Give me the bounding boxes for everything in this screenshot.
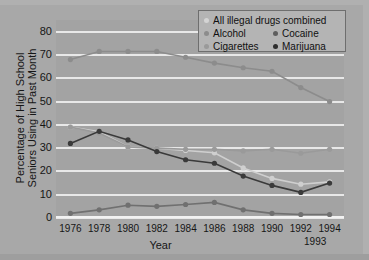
x-tick-label: 1988: [227, 223, 259, 234]
x-tick-label: 1990: [256, 223, 288, 234]
legend-item: Cigarettes: [203, 41, 272, 52]
data-point-marker: [298, 182, 303, 187]
x-tick-label: 1984: [170, 223, 202, 234]
y-tick-label: 40: [18, 119, 52, 130]
data-point-marker: [183, 157, 188, 162]
series-line: [70, 51, 329, 101]
legend-item: Marijuana: [272, 41, 341, 52]
data-point-marker: [269, 69, 274, 74]
y-tick-label: 20: [18, 165, 52, 176]
data-point-marker: [269, 211, 274, 216]
legend-label: Marijuana: [282, 41, 326, 52]
data-point-marker: [212, 200, 217, 205]
data-point-marker: [269, 147, 274, 152]
legend-row: AlcoholCocaine: [203, 27, 341, 39]
legend-label: Cocaine: [282, 28, 319, 39]
data-point-marker: [125, 137, 130, 142]
data-point-marker: [68, 57, 73, 62]
x-tick-label: 1992: [285, 223, 317, 234]
x-tick-label: 1980: [112, 223, 144, 234]
x-tick-label: 1982: [141, 223, 173, 234]
data-point-marker: [269, 183, 274, 188]
y-tick-label: 60: [18, 72, 52, 83]
legend-marker-icon: [204, 31, 209, 36]
x-tick-label: 1978: [83, 223, 115, 234]
data-point-marker: [212, 147, 217, 152]
legend-marker-icon: [273, 31, 278, 36]
legend-label: Alcohol: [213, 28, 246, 39]
data-point-marker: [154, 149, 159, 154]
figure-top-border: [0, 0, 369, 5]
data-point-marker: [125, 203, 130, 208]
data-point-marker: [97, 207, 102, 212]
data-point-marker: [125, 144, 130, 149]
data-point-marker: [183, 147, 188, 152]
data-point-marker: [241, 148, 246, 153]
legend-row: All illegal drugs combined: [203, 14, 341, 26]
legend-label: All illegal drugs combined: [213, 15, 326, 26]
data-point-marker: [269, 176, 274, 181]
data-point-marker: [298, 212, 303, 217]
legend-item: Alcohol: [203, 28, 272, 39]
x-tick-label: 1986: [198, 223, 230, 234]
data-point-marker: [212, 60, 217, 65]
y-tick-label: 10: [18, 189, 52, 200]
legend-item: Cocaine: [272, 28, 341, 39]
data-point-marker: [68, 211, 73, 216]
y-tick-label: 70: [18, 49, 52, 60]
data-point-marker: [241, 173, 246, 178]
data-point-marker: [298, 190, 303, 195]
data-point-marker: [68, 141, 73, 146]
data-point-marker: [212, 161, 217, 166]
series-line: [70, 202, 329, 214]
series-line: [70, 127, 329, 184]
data-point-marker: [241, 65, 246, 70]
data-point-marker: [154, 204, 159, 209]
chart-figure: Percentage of High School Seniors Using …: [0, 0, 369, 260]
data-point-marker: [241, 207, 246, 212]
data-point-marker: [327, 99, 332, 104]
data-point-marker: [327, 180, 332, 185]
x-axis-title: Year: [0, 239, 369, 251]
series-line: [70, 127, 329, 153]
y-tick-label: 30: [18, 142, 52, 153]
y-tick-label: 80: [18, 26, 52, 37]
data-point-marker: [327, 212, 332, 217]
data-point-marker: [154, 49, 159, 54]
legend-marker-icon: [273, 44, 278, 49]
figure-right-border: [363, 0, 369, 260]
legend-marker-icon: [204, 18, 209, 23]
data-point-marker: [327, 147, 332, 152]
data-point-marker: [183, 202, 188, 207]
figure-bottom-border: [0, 254, 369, 260]
y-tick-label: 50: [18, 96, 52, 107]
legend-row: CigarettesMarijuana: [203, 40, 341, 52]
data-point-marker: [241, 165, 246, 170]
x-tick-label: 1994: [314, 223, 346, 234]
legend-label: Cigarettes: [213, 41, 259, 52]
chart-legend: All illegal drugs combinedAlcoholCocaine…: [198, 10, 346, 52]
data-point-marker: [68, 125, 73, 130]
x-tick-label: 1976: [54, 223, 86, 234]
series-line: [70, 131, 329, 192]
x-axis-title-text: Year: [149, 239, 171, 251]
data-point-marker: [97, 129, 102, 134]
data-point-marker: [183, 55, 188, 60]
data-point-marker: [298, 151, 303, 156]
y-tick-label: 0: [18, 212, 52, 223]
data-point-marker: [97, 49, 102, 54]
legend-item: All illegal drugs combined: [203, 15, 341, 26]
data-point-marker: [125, 49, 130, 54]
data-point-marker: [298, 85, 303, 90]
legend-marker-icon: [204, 44, 209, 49]
